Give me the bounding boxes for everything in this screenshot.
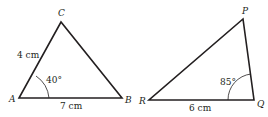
- triangle-abc-shape: [19, 22, 122, 98]
- triangle-diagram: C A B 4 cm 40° 7 cm P R Q 85° 6 cm: [0, 0, 268, 117]
- vertex-q-label: Q: [257, 99, 265, 109]
- side-ab-length: 7 cm: [60, 101, 83, 111]
- triangle-pqr-shape: [149, 19, 254, 100]
- side-rq-length: 6 cm: [189, 103, 212, 113]
- angle-q-value: 85°: [220, 77, 236, 87]
- vertex-r-label: R: [138, 96, 146, 106]
- angle-a-value: 40°: [46, 75, 62, 85]
- vertex-a-label: A: [8, 94, 16, 104]
- vertex-p-label: P: [241, 6, 249, 16]
- triangle-abc: C A B 4 cm 40° 7 cm: [8, 8, 132, 111]
- triangle-pqr: P R Q 85° 6 cm: [138, 6, 265, 113]
- vertex-b-label: B: [124, 95, 132, 105]
- side-ac-length: 4 cm: [17, 50, 40, 60]
- vertex-c-label: C: [58, 8, 65, 18]
